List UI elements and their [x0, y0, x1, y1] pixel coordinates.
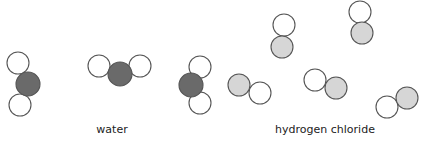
water-molecule: [179, 56, 211, 114]
hydrogen-atom-icon: [7, 52, 29, 74]
hydrogen-atom-icon: [88, 55, 110, 77]
molecule-diagram: [0, 0, 426, 143]
hydrogen-chloride-molecule: [228, 74, 271, 104]
chlorine-atom-icon: [325, 77, 347, 99]
hydrogen-chloride-molecule: [376, 87, 418, 118]
chlorine-atom-icon: [351, 22, 373, 44]
molecules-layer: [7, 1, 418, 118]
hydrogen-atom-icon: [249, 82, 271, 104]
chlorine-atom-icon: [228, 74, 250, 96]
water-molecule: [7, 52, 40, 116]
water-label: water: [96, 123, 127, 136]
hydrogen-atom-icon: [273, 14, 295, 36]
hydrogen-chloride-label: hydrogen chloride: [275, 123, 375, 136]
hydrogen-chloride-group: [228, 1, 418, 118]
water-molecule: [88, 55, 151, 86]
oxygen-atom-icon: [108, 62, 132, 86]
hydrogen-chloride-molecule: [304, 69, 347, 99]
chlorine-atom-icon: [271, 36, 293, 58]
hydrogen-atom-icon: [376, 96, 398, 118]
chlorine-atom-icon: [396, 87, 418, 109]
water-group: [7, 52, 211, 116]
hydrogen-chloride-molecule: [349, 1, 373, 44]
oxygen-atom-icon: [179, 73, 203, 97]
hydrogen-atom-icon: [9, 94, 31, 116]
hydrogen-atom-icon: [304, 69, 326, 91]
hydrogen-chloride-molecule: [271, 14, 295, 58]
hydrogen-atom-icon: [349, 1, 371, 23]
oxygen-atom-icon: [16, 72, 40, 96]
